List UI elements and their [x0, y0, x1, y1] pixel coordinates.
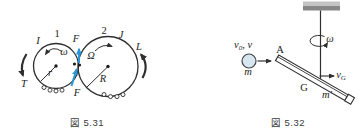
torque-L-arc: [141, 55, 146, 79]
force-bottom-label: F: [74, 88, 80, 99]
big-omega-rotation-arrow: [95, 45, 112, 51]
vg-sub: G: [341, 74, 346, 82]
gear2-radius-label: R: [100, 74, 106, 85]
gear2-inertia-label: J: [119, 30, 124, 41]
gear1-omega-label: ω: [60, 47, 67, 58]
point-a-label: A: [276, 45, 284, 56]
velocity-rest: , v: [242, 39, 252, 50]
axis-rotation-arrow: [310, 35, 327, 46]
contact-dot-left: [73, 62, 76, 65]
fig-532-rod-system: [242, 2, 355, 105]
vg-label: vG: [336, 70, 346, 82]
center-dots: [54, 62, 109, 68]
center-g-label: G: [300, 83, 308, 94]
fig531-caption: 図 5.31: [70, 115, 104, 129]
torque-T-arc: [22, 54, 27, 76]
fig-531-gears: [22, 37, 146, 99]
contact-dot-right: [78, 63, 81, 66]
torque-L-label: L: [136, 42, 142, 53]
gear1-number-label: 1: [54, 29, 59, 40]
gear1-radius-label: r: [48, 68, 52, 79]
gear1-inertia-label: I: [36, 36, 40, 47]
figure-panel: 1 I ω r T F F 2 J Ω R L 図 5.31 v0, v m A…: [0, 0, 364, 136]
ball-mass-label: m: [244, 67, 252, 78]
rod-mass-prime: ′: [330, 89, 332, 100]
gear2-omega-label: Ω: [87, 51, 95, 62]
fig532-caption: 図 5.32: [271, 115, 305, 129]
gear2-number-label: 2: [101, 26, 106, 37]
force-top-label: F: [73, 34, 79, 45]
diagram-canvas: [0, 0, 364, 136]
rod-mass-base: m: [322, 89, 330, 100]
ceiling-mount: [303, 2, 340, 11]
gear1-teeth: [42, 86, 64, 94]
ball-velocity-label: v0, v: [234, 40, 252, 52]
torque-T-label: T: [21, 79, 27, 90]
rod-mass-label: m′: [322, 90, 332, 101]
axis-omega-label: ω: [326, 34, 333, 45]
